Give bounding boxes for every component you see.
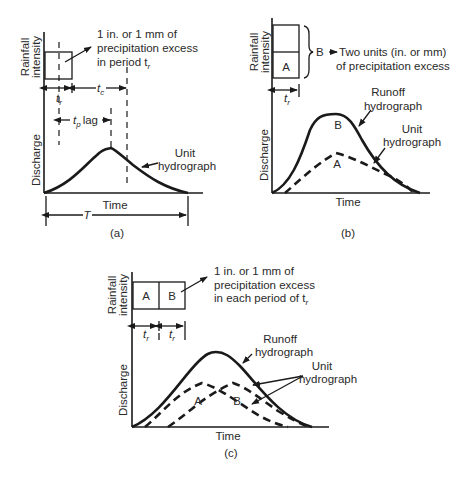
tr-label: tr — [56, 92, 62, 107]
curve-label-hydrograph: hydrograph — [158, 160, 216, 172]
curve-a-label: A — [194, 395, 202, 407]
y-label-intensity: intensity — [30, 36, 42, 78]
note-line-1: Two units (in. or mm) — [339, 46, 447, 58]
block-a-label: A — [282, 61, 290, 73]
block-b-label: B — [316, 46, 324, 58]
runoff-label-2: hydrograph — [255, 346, 313, 358]
unit-label-1: Unit — [402, 123, 423, 135]
x-label-time: Time — [215, 430, 240, 442]
note-line-2: precipitation excess — [97, 42, 198, 54]
y-label-discharge: Discharge — [258, 129, 270, 181]
T-label: T — [83, 209, 91, 221]
x-label-time: Time — [335, 196, 360, 208]
runoff-label-2: hydrograph — [364, 100, 422, 112]
note-line-1: 1 in. or 1 mm of — [97, 28, 178, 40]
curve-b-label: B — [233, 395, 241, 407]
unit-label-1: Unit — [312, 360, 333, 372]
runoff-label-1: Runoff — [263, 333, 297, 345]
note-line-3: in period tr — [97, 56, 151, 71]
note-line-1: 1 in. or 1 mm of — [214, 265, 295, 277]
panel-c: Rainfall intensity Discharge Time A B 1 … — [106, 265, 357, 459]
tr-label-1: tr — [143, 328, 149, 343]
unit-label-2: hydrograph — [299, 373, 357, 385]
unit-label-2: hydrograph — [383, 136, 441, 148]
tc-label: tc — [97, 82, 104, 97]
note-line-2: of precipitation excess — [336, 60, 450, 72]
caption-c: (c) — [224, 447, 238, 459]
y-label-discharge: Discharge — [117, 364, 129, 416]
curve-label-unit: Unit — [175, 147, 196, 159]
tr-label: tr — [284, 92, 290, 107]
curve-b-label: B — [334, 119, 342, 131]
y-label-intensity: intensity — [259, 31, 271, 73]
note-line-2: precipitation excess — [214, 279, 315, 291]
x-label-time: Time — [102, 199, 127, 211]
block-b-label: B — [168, 290, 176, 302]
unit-hydrograph-curve — [285, 153, 414, 193]
runoff-label-1: Runoff — [371, 86, 405, 98]
runoff-label-arrow — [359, 110, 371, 126]
brace — [304, 26, 313, 78]
note-line-3: in each period of tr — [214, 292, 308, 307]
curve-a-label: A — [333, 158, 341, 170]
unit-hydrograph-figure: Rainfall intensity Discharge Time 1 in. … — [0, 0, 457, 478]
y-label-discharge: Discharge — [30, 134, 42, 186]
runoff-label-arrow — [243, 354, 252, 363]
tp-lag-label: tplag — [73, 114, 98, 129]
curve-label-arrow — [142, 163, 158, 167]
y-label-intensity: intensity — [117, 274, 129, 316]
block-a-label: A — [142, 290, 150, 302]
caption-b: (b) — [341, 227, 355, 239]
caption-a: (a) — [110, 227, 124, 239]
note-arrow — [65, 47, 91, 62]
panel-a: Rainfall intensity Discharge Time 1 in. … — [19, 28, 216, 239]
unit-hydrograph-a — [145, 383, 288, 427]
unit-label-arrow — [374, 148, 385, 163]
panel-b: Rainfall intensity Discharge Time A B Tw… — [248, 18, 450, 239]
tr-label-2: tr — [169, 328, 175, 343]
